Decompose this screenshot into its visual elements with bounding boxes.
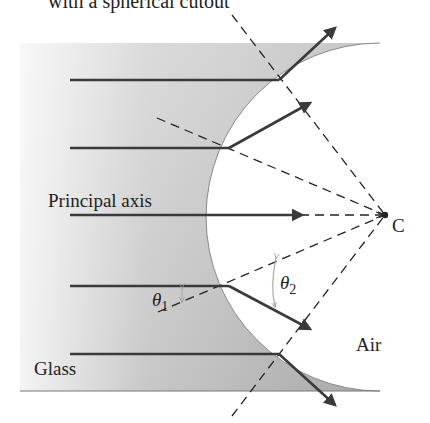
center-label: C [392,215,405,237]
center-point [382,212,388,218]
air-label: Air [356,334,381,356]
principal-axis-label: Principal axis [48,190,152,212]
theta2-arc [273,258,276,307]
theta1-label: θ1 [152,289,168,315]
glass-block [20,43,380,391]
theta2-label: θ2 [280,272,296,298]
glass-label: Glass [34,358,76,380]
